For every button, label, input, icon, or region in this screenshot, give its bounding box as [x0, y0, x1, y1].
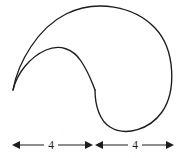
dimension-label-right: 4: [132, 139, 138, 151]
right-arrowhead-icon: [166, 141, 174, 149]
center-right-arrowhead-icon: [85, 141, 93, 149]
left-arrowhead-icon: [12, 141, 20, 149]
dimension-label-left: 4: [48, 139, 54, 151]
figure-canvas: 4 4: [0, 0, 185, 158]
inner-lobe-curve: [13, 47, 95, 90]
geometry-figure: 4 4: [0, 0, 185, 158]
outer-lobe-curve: [13, 6, 172, 131]
